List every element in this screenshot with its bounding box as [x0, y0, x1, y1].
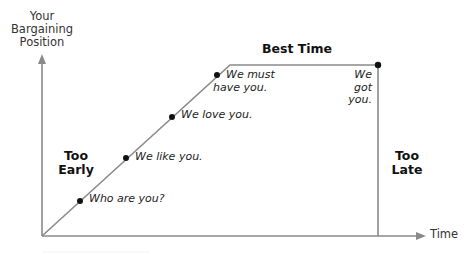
point-we-got-you [375, 62, 381, 68]
point-we-love-you [169, 114, 175, 120]
x-axis-title: Time [430, 228, 458, 241]
label-line: you. [340, 94, 372, 107]
label-we-love-you: We love you. [181, 109, 252, 122]
label-we-must-have-you: We must have you. [213, 69, 275, 94]
region-best-time: Best Time [262, 42, 332, 56]
region-label-line: Too [56, 149, 96, 163]
region-label-line: Too [390, 149, 424, 163]
label-we-got-you: We got you. [340, 69, 372, 107]
point-who-are-you [77, 198, 83, 204]
label-line: We [340, 69, 372, 82]
label-line: We must [213, 69, 275, 82]
y-axis-arrow-icon [38, 54, 46, 64]
region-too-early: Too Early [56, 149, 96, 178]
label-line: have you. [213, 82, 275, 95]
region-too-late: Too Late [390, 149, 424, 178]
region-label-line: Early [56, 163, 96, 177]
label-who-are-you: Who are you? [89, 193, 165, 206]
y-axis-title-line: Position [2, 36, 82, 49]
y-axis-title: Your Bargaining Position [2, 10, 82, 50]
point-we-like-you [123, 155, 129, 161]
region-label-line: Late [390, 163, 424, 177]
x-axis-arrow-icon [416, 232, 426, 240]
label-we-like-you: We like you. [135, 151, 203, 164]
